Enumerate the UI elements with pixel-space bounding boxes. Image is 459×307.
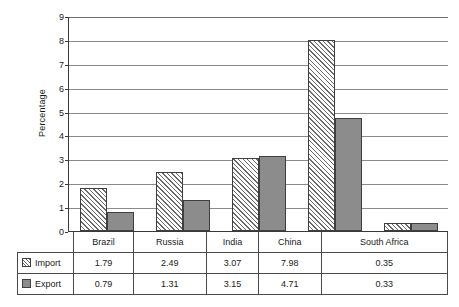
value-import-russia: 2.49 xyxy=(133,253,206,274)
category-header-row: BrazilRussiaIndiaChinaSouth Africa xyxy=(18,232,448,253)
data-table: BrazilRussiaIndiaChinaSouth AfricaImport… xyxy=(17,232,448,295)
legend-label: Import xyxy=(35,258,61,268)
y-axis-tick-label: 5 xyxy=(50,109,64,118)
category-header-india: India xyxy=(206,232,258,253)
value-export-russia: 1.31 xyxy=(133,274,206,295)
y-axis-tick-label: 8 xyxy=(50,37,64,46)
bar-group xyxy=(220,17,296,231)
legend-item-export[interactable]: Export xyxy=(18,274,74,295)
value-export-brazil: 0.79 xyxy=(74,274,134,295)
y-axis-tick-mark xyxy=(65,208,68,209)
bar-export-china xyxy=(335,118,362,231)
y-axis-tick-label: 9 xyxy=(50,13,64,22)
y-axis-tick-label: 7 xyxy=(50,61,64,70)
category-header-brazil: Brazil xyxy=(74,232,134,253)
y-axis-tick-mark xyxy=(65,65,68,66)
y-axis-tick-mark xyxy=(65,41,68,42)
y-axis-tick-label: 4 xyxy=(50,132,64,141)
value-export-india: 3.15 xyxy=(206,274,258,295)
category-header-china: China xyxy=(259,232,322,253)
category-header-russia: Russia xyxy=(133,232,206,253)
y-axis-tick-label: 6 xyxy=(50,85,64,94)
table-row: Import1.792.493.077.980.35 xyxy=(18,253,448,274)
y-axis-tick-mark xyxy=(65,113,68,114)
y-axis-tick-mark xyxy=(65,89,68,90)
bar-export-south-africa xyxy=(411,223,438,231)
y-axis-tick-mark xyxy=(65,136,68,137)
bar-group xyxy=(68,17,144,231)
y-axis-tick-mark xyxy=(65,184,68,185)
bar-group xyxy=(372,17,448,231)
y-axis-title: Percentage xyxy=(37,53,47,173)
y-axis-tick-mark xyxy=(65,232,68,233)
y-axis-tick-mark xyxy=(65,17,68,18)
y-axis-tick-labels: 0123456789 xyxy=(48,17,64,232)
legend-label: Export xyxy=(35,279,61,289)
value-import-brazil: 1.79 xyxy=(74,253,134,274)
bar-group xyxy=(296,17,372,231)
bar-import-brazil xyxy=(80,188,107,231)
y-axis-tick-mark xyxy=(65,160,68,161)
category-header-south-africa: South Africa xyxy=(321,232,447,253)
table-row: Export0.791.313.154.710.33 xyxy=(18,274,448,295)
table-corner-spacer xyxy=(18,232,74,253)
bar-import-india xyxy=(232,158,259,231)
value-export-china: 4.71 xyxy=(259,274,322,295)
bar-export-russia xyxy=(183,200,210,231)
plot-area xyxy=(68,17,448,232)
bar-import-china xyxy=(308,40,335,231)
y-axis-tick-label: 1 xyxy=(50,204,64,213)
bar-export-brazil xyxy=(107,212,134,231)
bar-chart: Percentage 0123456789 BrazilRussiaIndiaC… xyxy=(0,0,459,307)
bar-group xyxy=(144,17,220,231)
legend-item-import[interactable]: Import xyxy=(18,253,74,274)
value-import-south-africa: 0.35 xyxy=(321,253,447,274)
bar-import-south-africa xyxy=(384,223,411,231)
y-axis-tick-label: 3 xyxy=(50,156,64,165)
value-import-china: 7.98 xyxy=(259,253,322,274)
y-axis-line xyxy=(68,17,69,232)
hatched-swatch xyxy=(22,258,31,267)
bar-export-india xyxy=(259,156,286,231)
y-axis-tick-label: 2 xyxy=(50,180,64,189)
value-import-india: 3.07 xyxy=(206,253,258,274)
bar-import-russia xyxy=(156,172,183,231)
gray-swatch xyxy=(22,279,31,288)
value-export-south-africa: 0.33 xyxy=(321,274,447,295)
